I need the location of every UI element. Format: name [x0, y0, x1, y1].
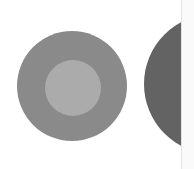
half-circle-clip	[0, 0, 181, 169]
dark-half-circle	[144, 14, 181, 154]
right-panel	[182, 0, 194, 169]
graphic-canvas	[0, 0, 194, 169]
